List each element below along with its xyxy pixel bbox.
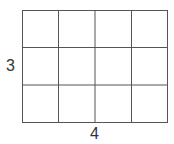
- grid-rectangle: [22, 10, 168, 123]
- height-label: 3: [6, 58, 15, 74]
- width-label: 4: [90, 126, 99, 142]
